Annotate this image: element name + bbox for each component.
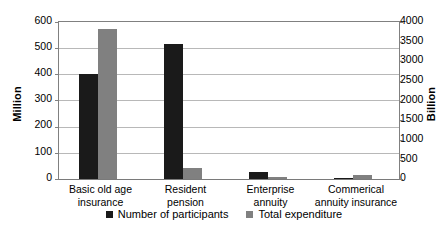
y-tick-right-label: 3500 [400,35,440,46]
tickmark-left-500 [55,48,59,49]
y-tick-right-label: 1500 [400,113,440,124]
x-category-label-commerical-annuity-insurance: Commerical annuity insurance [311,183,401,209]
y-tick-left-100: 100 [18,146,52,157]
y-tick-right-3500: 3500 [400,35,440,46]
x-category-line: Enterprise [228,183,313,196]
bar-participants-resident-pension [164,44,183,179]
y-tick-right-2500: 2500 [400,74,440,85]
bar-expenditure-basic-old-age-insurance [98,29,117,179]
y-tick-right-label: 4000 [400,15,440,26]
y-tick-right-500: 500 [400,153,440,164]
y-tick-left-label: 300 [18,93,52,104]
tickmark-left-0 [55,179,59,180]
legend-entry-total-expenditure: Total expenditure [246,208,342,220]
legend-swatch-icon [246,211,253,218]
tickmark-right-500 [399,160,403,161]
tickmark-left-600 [55,22,59,23]
tickmark-right-2000 [399,101,403,102]
y-tick-right-2000: 2000 [400,94,440,105]
bar-chart: Million Billion 600 500 400 300 200 100 … [0,0,448,238]
y-tick-left-600: 600 [18,15,52,26]
bar-participants-commerical-annuity-insurance [334,178,353,179]
y-tick-right-label: 1000 [400,133,440,144]
x-category-label-enterprise-annuity: Enterprise annuity [228,183,313,209]
y-tick-right-0: 0 [400,172,440,183]
bar-participants-basic-old-age-insurance [79,74,98,179]
x-category-line: Basic old age [58,183,143,196]
y-tick-right-label: 3000 [400,54,440,65]
y-tick-left-0: 0 [18,172,52,183]
y-tick-right-label: 500 [400,153,440,164]
tickmark-right-3000 [399,61,403,62]
tickmark-left-300 [55,100,59,101]
plot-area [58,21,400,180]
y-tick-right-4000: 4000 [400,15,440,26]
x-category-line: Resident [143,183,228,196]
bar-expenditure-resident-pension [183,168,202,179]
chart-legend: Number of participants Total expenditure [0,208,448,220]
y-tick-left-label: 600 [18,15,52,26]
y-tick-left-200: 200 [18,119,52,130]
legend-label: Number of participants [118,208,229,220]
y-tick-left-label: 200 [18,119,52,130]
x-category-line: Commerical [311,183,401,196]
y-tick-left-label: 500 [18,41,52,52]
legend-label: Total expenditure [258,208,342,220]
tickmark-left-200 [55,127,59,128]
bar-expenditure-commerical-annuity-insurance [353,175,372,179]
x-category-label-resident-pension: Resident pension [143,183,228,209]
y-tick-right-3000: 3000 [400,54,440,65]
y-tick-left-300: 300 [18,93,52,104]
y-tick-left-label: 0 [18,172,52,183]
y-tick-right-label: 0 [400,172,440,183]
y-tick-right-label: 2000 [400,94,440,105]
tickmark-right-2500 [399,81,403,82]
y-tick-left-label: 100 [18,146,52,157]
tickmark-left-400 [55,74,59,75]
tickmark-left-100 [55,153,59,154]
tickmark-right-0 [399,179,403,180]
y-tick-left-label: 400 [18,67,52,78]
tickmark-right-3500 [399,42,403,43]
tickmark-right-4000 [399,22,403,23]
tickmark-right-1000 [399,140,403,141]
y-tick-left-400: 400 [18,67,52,78]
y-tick-right-label: 2500 [400,74,440,85]
bar-expenditure-enterprise-annuity [268,177,287,179]
y-tick-right-1000: 1000 [400,133,440,144]
y-tick-right-1500: 1500 [400,113,440,124]
bar-participants-enterprise-annuity [249,172,268,179]
legend-entry-number-of-participants: Number of participants [106,208,229,220]
y-tick-left-500: 500 [18,41,52,52]
tickmark-right-1500 [399,120,403,121]
x-category-label-basic-old-age-insurance: Basic old age insurance [58,183,143,209]
legend-swatch-icon [106,211,113,218]
